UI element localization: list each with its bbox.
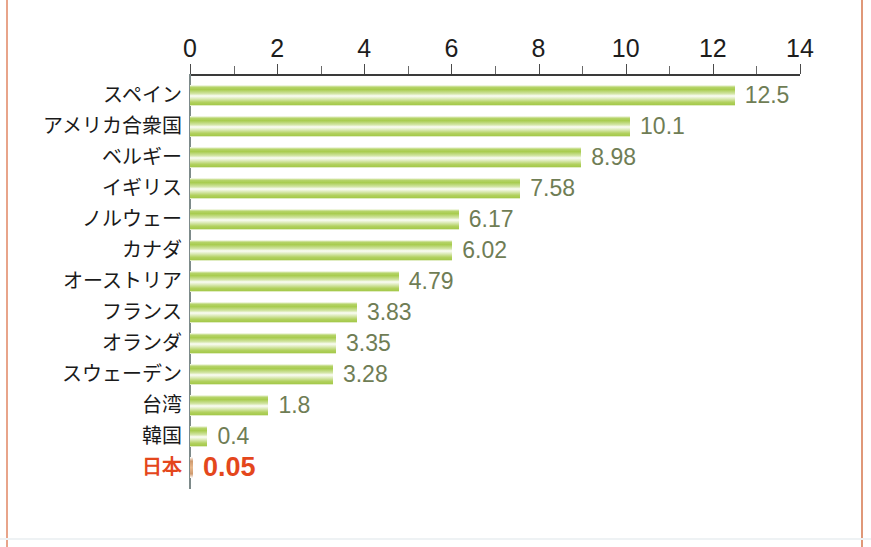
x-axis-tick-major (451, 64, 452, 74)
bar (190, 457, 193, 478)
category-label: 日本 (10, 452, 190, 483)
category-label: カナダ (10, 235, 190, 266)
category-label: フランス (10, 297, 190, 328)
bar (190, 364, 333, 385)
x-axis-tick-minor (234, 66, 235, 74)
x-axis-tick-major (626, 64, 627, 74)
x-axis-tick-minor (408, 66, 409, 74)
bar-value-label: 0.05 (203, 452, 256, 483)
category-label: アメリカ合衆国 (10, 111, 190, 142)
category-label: スウェーデン (10, 359, 190, 390)
x-axis-tick-major (800, 64, 801, 74)
x-axis-tick-label: 8 (509, 34, 569, 62)
bar (190, 240, 452, 261)
bar (190, 333, 336, 354)
x-axis-tick-label: 0 (160, 34, 220, 62)
bar-row: オーストリア4.79 (0, 266, 871, 297)
category-label-cell: イギリス (0, 173, 190, 204)
category-label-cell: スペイン (0, 80, 190, 111)
category-label-cell: カナダ (0, 235, 190, 266)
bar-row: カナダ6.02 (0, 235, 871, 266)
category-label-cell: 韓国 (0, 421, 190, 452)
bar (190, 426, 207, 447)
x-axis-tick-label: 6 (421, 34, 481, 62)
bar-row: 日本0.05 (0, 452, 871, 483)
x-axis-line (190, 74, 800, 76)
x-axis-tick-minor (756, 66, 757, 74)
x-axis-tick-minor (321, 66, 322, 74)
bar-value-label: 4.79 (409, 266, 454, 297)
category-label-cell: ベルギー (0, 142, 190, 173)
bar (190, 85, 735, 106)
bar-value-label: 0.4 (217, 421, 249, 452)
bar-row: 韓国0.4 (0, 421, 871, 452)
category-label: ノルウェー (10, 204, 190, 235)
category-label: オランダ (10, 328, 190, 359)
category-label: 韓国 (10, 421, 190, 452)
x-axis-tick-label: 12 (683, 34, 743, 62)
chart-page: 02468101214 スペイン12.5アメリカ合衆国10.1ベルギー8.98イ… (0, 0, 871, 547)
category-label: ベルギー (10, 142, 190, 173)
bar-row: フランス3.83 (0, 297, 871, 328)
bar-row: イギリス7.58 (0, 173, 871, 204)
bar (190, 271, 399, 292)
x-axis-tick-label: 10 (596, 34, 656, 62)
x-axis-tick-label: 2 (247, 34, 307, 62)
x-axis-tick-major (713, 64, 714, 74)
bar-value-label: 7.58 (530, 173, 575, 204)
horizontal-bar-chart: 02468101214 スペイン12.5アメリカ合衆国10.1ベルギー8.98イ… (0, 0, 871, 547)
category-label-cell: アメリカ合衆国 (0, 111, 190, 142)
bar-value-label: 8.98 (591, 142, 636, 173)
bar-value-label: 6.17 (469, 204, 514, 235)
x-axis-tick-major (539, 64, 540, 74)
x-axis-tick-minor (669, 66, 670, 74)
category-label: イギリス (10, 173, 190, 204)
bar (190, 178, 520, 199)
category-label-cell: オランダ (0, 328, 190, 359)
category-label-cell: フランス (0, 297, 190, 328)
bar-value-label: 6.02 (462, 235, 507, 266)
bar (190, 302, 357, 323)
bar-row: スペイン12.5 (0, 80, 871, 111)
x-axis-tick-major (190, 64, 191, 74)
bar (190, 209, 459, 230)
bar-value-label: 10.1 (640, 111, 685, 142)
bar (190, 116, 630, 137)
bar-value-label: 1.8 (278, 390, 310, 421)
bar-row: スウェーデン3.28 (0, 359, 871, 390)
bar (190, 147, 581, 168)
bar-value-label: 12.5 (745, 80, 790, 111)
bar-value-label: 3.35 (346, 328, 391, 359)
category-label: オーストリア (10, 266, 190, 297)
bar-row: オランダ3.35 (0, 328, 871, 359)
category-label-cell: 日本 (0, 452, 190, 483)
x-axis-tick-label: 14 (770, 34, 830, 62)
category-label-cell: ノルウェー (0, 204, 190, 235)
bar-value-label: 3.28 (343, 359, 388, 390)
category-label-cell: 台湾 (0, 390, 190, 421)
bar (190, 395, 268, 416)
category-label: スペイン (10, 80, 190, 111)
x-axis-tick-label: 4 (334, 34, 394, 62)
x-axis-tick-minor (495, 66, 496, 74)
bar-row: ベルギー8.98 (0, 142, 871, 173)
category-label: 台湾 (10, 390, 190, 421)
bar-value-label: 3.83 (367, 297, 412, 328)
bar-row: 台湾1.8 (0, 390, 871, 421)
bar-row: ノルウェー6.17 (0, 204, 871, 235)
category-label-cell: オーストリア (0, 266, 190, 297)
category-label-cell: スウェーデン (0, 359, 190, 390)
x-axis-tick-major (277, 64, 278, 74)
bar-row: アメリカ合衆国10.1 (0, 111, 871, 142)
x-axis-tick-minor (582, 66, 583, 74)
x-axis-tick-major (364, 64, 365, 74)
